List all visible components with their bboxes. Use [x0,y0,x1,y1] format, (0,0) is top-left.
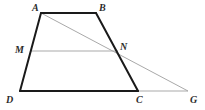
vertex-label-B: B [99,3,106,13]
vertex-label-A: A [32,3,39,13]
geometry-diagram-svg [0,0,205,110]
vertex-label-D: D [6,95,13,105]
segment-AG [41,13,188,91]
vertex-label-N: N [120,42,127,52]
segment-BC [96,13,138,91]
vertex-label-M: M [15,45,24,55]
geometry-figure: A B M N D C G [0,0,205,110]
vertex-label-G: G [190,95,197,105]
vertex-label-C: C [136,95,143,105]
